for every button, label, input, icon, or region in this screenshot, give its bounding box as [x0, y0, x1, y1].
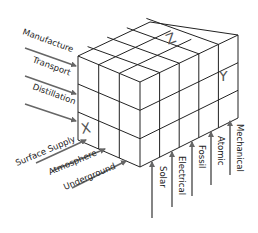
label-distillation: Distillation: [31, 81, 77, 106]
axis-x-label: X: [80, 119, 93, 136]
cube: [78, 18, 238, 167]
label-atomic: Atomic: [216, 136, 226, 166]
label-solar: Solar: [158, 166, 168, 188]
label-electrical: Electrical: [177, 156, 187, 195]
axis-y-label: Y: [218, 68, 228, 84]
label-fossil: Fossil: [197, 145, 207, 168]
axis-z-label: Z: [164, 29, 178, 47]
label-mechanical: Mechanical: [235, 124, 245, 172]
cube-diagram: X Y Z Manufacture Transport Distillation…: [0, 0, 258, 233]
